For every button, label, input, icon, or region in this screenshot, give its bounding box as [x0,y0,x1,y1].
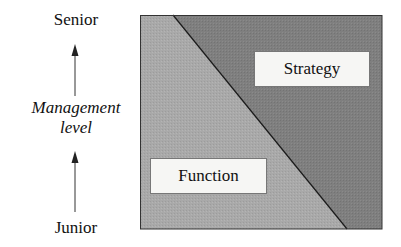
function-label-box: Function [150,158,267,194]
strategy-label: Strategy [284,59,341,79]
diagram-box [0,0,401,247]
strategy-label-box: Strategy [254,51,370,87]
function-label: Function [178,166,238,186]
